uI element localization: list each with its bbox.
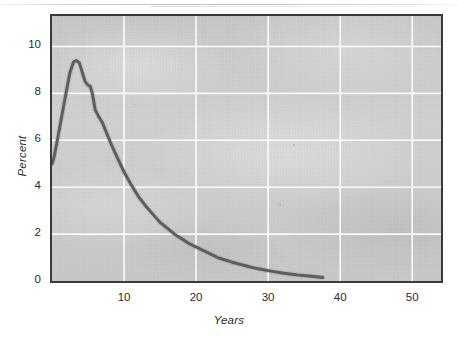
x-tick-label: 30 [253, 291, 283, 303]
x-tick-label: 10 [109, 291, 139, 303]
x-tick-label: 40 [325, 291, 355, 303]
y-tick-label: 8 [19, 85, 41, 97]
line-chart-figure: 1086420 1020304050 Percent Years [0, 0, 458, 337]
plot-svg [52, 16, 441, 281]
y-axis-title: Percent [16, 126, 28, 186]
x-tick-label: 50 [397, 291, 427, 303]
y-tick-label: 10 [19, 38, 41, 50]
plot-area [50, 14, 443, 283]
y-tick-label: 2 [19, 226, 41, 238]
y-tick-label: 0 [19, 273, 41, 285]
x-tick-label: 20 [181, 291, 211, 303]
x-axis-title: Years [0, 314, 458, 326]
gridlines-vertical [124, 16, 412, 281]
